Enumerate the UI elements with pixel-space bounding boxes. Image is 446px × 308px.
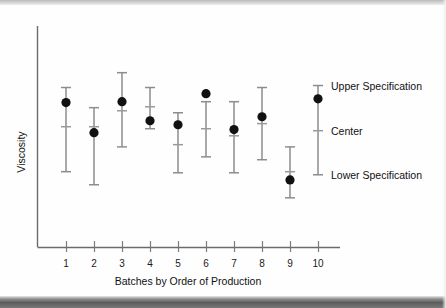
data-point-batch-3 xyxy=(117,73,127,147)
data-point-batch-6 xyxy=(201,89,211,157)
x-axis-ticks xyxy=(67,241,319,252)
data-marker-batch-7 xyxy=(229,125,238,134)
x-tick-label-10: 10 xyxy=(312,258,324,269)
data-point-batch-7 xyxy=(229,102,239,173)
data-point-batch-5 xyxy=(173,113,183,173)
viscosity-batch-scatter-plot: Viscosity Batches by Order of Production… xyxy=(0,0,446,308)
data-marker-batch-1 xyxy=(61,98,70,107)
data-marker-batch-2 xyxy=(89,128,98,137)
data-marker-batch-10 xyxy=(313,94,322,103)
chart-figure: Viscosity Batches by Order of Production… xyxy=(0,0,446,308)
legend-label-center: Center xyxy=(331,125,363,137)
x-axis-title: Batches by Order of Production xyxy=(115,275,262,287)
x-tick-label-5: 5 xyxy=(175,258,181,269)
x-tick-label-8: 8 xyxy=(259,258,265,269)
legend-label-lower-specification: Lower Specification xyxy=(331,169,422,181)
y-axis-title: Viscosity xyxy=(15,131,27,173)
legend: Upper Specification Center Lower Specifi… xyxy=(331,80,422,181)
data-point-batch-2 xyxy=(89,108,99,185)
data-point-batch-4 xyxy=(145,88,155,129)
data-point-batch-9 xyxy=(285,147,295,198)
data-marker-batch-3 xyxy=(117,97,126,106)
legend-label-upper-specification: Upper Specification xyxy=(331,80,422,92)
x-tick-label-3: 3 xyxy=(119,258,125,269)
x-tick-label-6: 6 xyxy=(203,258,209,269)
data-marker-batch-5 xyxy=(173,120,182,129)
data-series-group xyxy=(61,73,323,198)
x-tick-label-7: 7 xyxy=(231,258,237,269)
data-marker-batch-9 xyxy=(285,175,294,184)
x-tick-label-9: 9 xyxy=(287,258,293,269)
data-point-batch-8 xyxy=(257,88,267,160)
x-tick-label-4: 4 xyxy=(147,258,153,269)
data-marker-batch-8 xyxy=(257,112,266,121)
x-tick-label-1: 1 xyxy=(63,258,69,269)
data-marker-batch-6 xyxy=(201,89,210,98)
data-point-batch-1 xyxy=(61,88,71,172)
data-marker-batch-4 xyxy=(145,116,154,125)
data-point-batch-10 xyxy=(313,86,323,175)
x-axis-tick-labels: 1 2 3 4 5 6 7 8 9 10 xyxy=(63,258,324,269)
x-tick-label-2: 2 xyxy=(91,258,97,269)
